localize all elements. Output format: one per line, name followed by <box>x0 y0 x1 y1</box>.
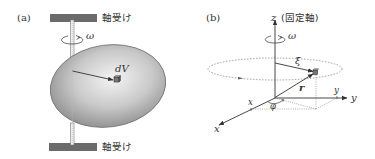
phi-label: φ <box>270 102 276 111</box>
omega-label-b: ω <box>288 31 296 41</box>
top-bearing-label: 軸受け <box>102 13 132 23</box>
panel-b <box>208 20 347 125</box>
rotation-shaft-lower <box>71 123 75 145</box>
bottom-bearing-label: 軸受け <box>102 142 132 152</box>
xi-arrow <box>275 63 313 72</box>
omega-label-a: ω <box>86 31 94 41</box>
x-axis-label: x <box>214 124 220 134</box>
panel-b-label: (b) <box>206 13 220 23</box>
x-component-label: x <box>248 98 253 107</box>
x-axis <box>219 98 275 125</box>
rigid-body-rotation-figure <box>0 0 375 159</box>
panel-a-label: (a) <box>17 13 31 23</box>
mass-element-icon <box>313 69 319 75</box>
y-component-label: y <box>334 86 339 95</box>
z-axis-note: (固定軸) <box>281 13 318 23</box>
panel-a <box>45 14 171 151</box>
y-axis-label: y <box>351 93 357 103</box>
xi-label: ξ <box>295 56 301 66</box>
r-label: r <box>299 83 304 93</box>
volume-element-icon <box>114 76 121 82</box>
z-axis-label: z <box>271 13 276 23</box>
volume-element-label: dV <box>115 64 129 74</box>
rigid-body <box>45 37 171 134</box>
r-arrow <box>275 74 313 98</box>
